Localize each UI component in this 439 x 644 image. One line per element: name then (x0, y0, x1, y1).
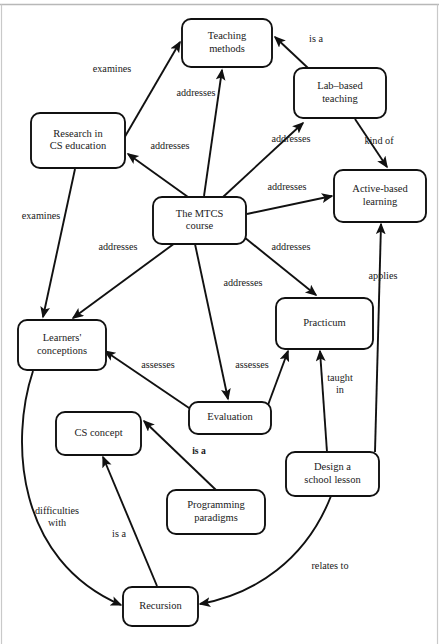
node-label-mtcs-course: course (186, 220, 214, 231)
edge-label-design-taughtin-practicum: taught (327, 372, 353, 383)
node-design-school-lesson[interactable]: Design aschool lesson (286, 452, 379, 496)
edge-label-design-applies-active: applies (369, 270, 398, 281)
edge-label-mtcs-addresses-practicum: addresses (271, 241, 310, 252)
node-label-programming-paradigms: paradigms (194, 512, 238, 523)
edge-label-mtcs-addresses-evaluation: addresses (223, 277, 262, 288)
node-label-lab-based-teaching: teaching (322, 93, 358, 104)
edge-mtcs-addresses-research (128, 154, 188, 197)
node-programming-paradigms[interactable]: Programmingparadigms (167, 490, 265, 534)
node-label-programming-paradigms: Programming (187, 499, 245, 510)
concept-map-svg: TeachingmethodsLab–basedteachingResearch… (0, 0, 439, 644)
node-label-mtcs-course: The MTCS (176, 208, 224, 219)
node-label-research-cs-ed: Research in (53, 128, 103, 139)
edge-label-design-taughtin-practicum: in (336, 384, 344, 395)
edge-learners-difficulties-recursion (22, 371, 121, 605)
node-label-learners-conceptions: conceptions (37, 345, 87, 356)
node-label-evaluation: Evaluation (207, 411, 253, 422)
edge-label-evaluation-assesses-learners: assesses (141, 359, 174, 370)
edge-recursion-isa-cs-concept (103, 457, 157, 586)
concept-map-canvas: TeachingmethodsLab–basedteachingResearch… (0, 0, 439, 644)
edge-design-applies-active (375, 224, 381, 452)
node-learners-conceptions[interactable]: Learners'conceptions (18, 320, 106, 370)
edge-label-design-relatesto-recursion: relates to (311, 560, 348, 571)
edge-label-lab-kindof-active: kind of (364, 135, 394, 146)
node-lab-based-teaching[interactable]: Lab–basedteaching (294, 68, 386, 118)
node-label-cs-concept: CS concept (74, 427, 122, 438)
edge-label-mtcs-addresses-lab: addresses (271, 133, 310, 144)
node-label-design-school-lesson: Design a (314, 461, 351, 472)
edge-label-research-examines-teaching: examines (93, 63, 132, 74)
node-evaluation[interactable]: Evaluation (189, 402, 271, 434)
node-practicum[interactable]: Practicum (276, 298, 373, 349)
node-label-active-based: Active-based (352, 183, 408, 194)
node-label-active-based: learning (363, 196, 398, 207)
node-label-practicum: Practicum (303, 317, 346, 328)
node-research-cs-ed[interactable]: Research inCS education (31, 113, 125, 168)
node-mtcs-course[interactable]: The MTCScourse (153, 197, 246, 244)
edge-label-mtcs-addresses-learners: addresses (98, 241, 137, 252)
node-label-recursion: Recursion (139, 600, 182, 611)
node-label-research-cs-ed: CS education (50, 140, 107, 151)
edge-mtcs-addresses-learners (73, 243, 175, 318)
node-label-teaching-methods: methods (209, 43, 245, 54)
node-cs-concept[interactable]: CS concept (56, 412, 141, 455)
node-label-teaching-methods: Teaching (208, 30, 247, 41)
edge-label-mtcs-addresses-active: addresses (267, 181, 306, 192)
node-label-design-school-lesson: school lesson (304, 474, 361, 485)
edge-label-mtcs-addresses-teaching: addresses (176, 87, 215, 98)
edge-label-research-examines-learners: examines (22, 210, 61, 221)
edge-mtcs-addresses-active (247, 196, 332, 214)
edge-design-taughtin-practicum (320, 351, 327, 452)
node-active-based[interactable]: Active-basedlearning (334, 170, 426, 222)
edge-research-examines-learners (43, 169, 75, 317)
nodes-layer: TeachingmethodsLab–basedteachingResearch… (18, 19, 426, 626)
edge-label-mtcs-addresses-research: addresses (150, 140, 189, 151)
edge-label-programming-isa-cs-concept: is a (192, 445, 206, 456)
edge-label-evaluation-assesses-practicum: assesses (235, 359, 268, 370)
node-recursion[interactable]: Recursion (123, 587, 198, 626)
node-label-learners-conceptions: Learners' (43, 332, 82, 343)
edge-mtcs-addresses-evaluation (195, 244, 228, 399)
edge-label-learners-difficulties-recursion: difficulties (35, 505, 79, 516)
node-label-lab-based-teaching: Lab–based (317, 80, 363, 91)
edge-evaluation-assesses-practicum (268, 351, 288, 405)
edge-label-recursion-isa-cs-concept: is a (112, 528, 126, 539)
node-teaching-methods[interactable]: Teachingmethods (182, 19, 272, 67)
edge-label-learners-difficulties-recursion: with (48, 517, 66, 528)
edge-label-lab-isa-teaching: is a (309, 33, 323, 44)
